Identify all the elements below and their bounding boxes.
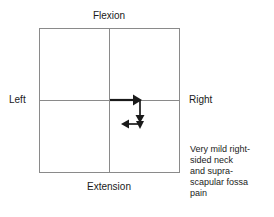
axis-label-right: Right [189,94,212,106]
motion-quadrant-diagram: Flexion Extension Left Right Very mild r… [0,0,274,217]
horizontal-axis-gridline [39,100,180,101]
axis-label-extension: Extension [0,181,218,193]
clinical-annotation-text: Very mild right- sided neck and supra- s… [190,144,272,199]
axis-label-flexion: Flexion [0,10,218,22]
axis-label-left: Left [9,94,26,106]
